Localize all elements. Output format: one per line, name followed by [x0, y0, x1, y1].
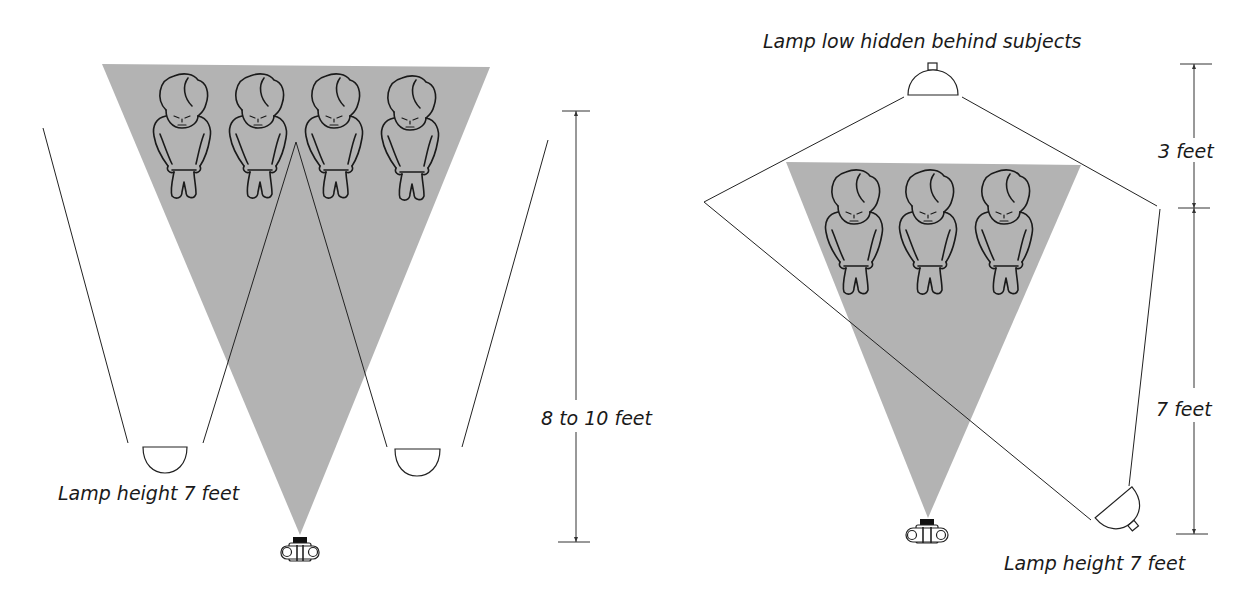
- distance-label: 8 to 10 feet: [541, 407, 654, 429]
- left-diagram: 8 to 10 feet Lamp height 7 feet: [43, 64, 654, 561]
- camera-icon: [281, 537, 319, 561]
- distance-dimension: [558, 111, 590, 542]
- lamp-height-label: Lamp height 7 feet: [1004, 552, 1187, 574]
- hidden-lamp-label: Lamp low hidden behind subjects: [763, 30, 1082, 52]
- lamp-beam-edge: [1129, 209, 1160, 486]
- lamp-icon: [1095, 487, 1154, 544]
- hidden-lamp-icon: [908, 63, 958, 95]
- lamp-icon: [143, 447, 187, 473]
- lamp-beam-edge: [462, 140, 548, 447]
- right-diagram: Lamp low hidden behind subjects 3 feet 7…: [704, 30, 1215, 574]
- upper-dimension-label: 3 feet: [1158, 140, 1215, 162]
- height-dimension: [1176, 64, 1212, 534]
- camera-icon: [906, 519, 948, 543]
- lamp-height-label: Lamp height 7 feet: [58, 482, 241, 504]
- lamp-beam-edge: [43, 128, 128, 443]
- lamp-icon: [395, 449, 440, 476]
- lower-dimension-label: 7 feet: [1156, 398, 1213, 420]
- lighting-diagram-page: 8 to 10 feet Lamp height 7 feet: [0, 0, 1256, 604]
